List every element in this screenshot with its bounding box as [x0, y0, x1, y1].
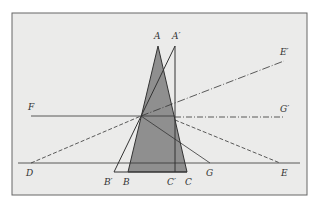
label-a-prime: A′ — [171, 31, 181, 41]
label-b-prime: B′ — [103, 177, 113, 187]
label-b: B — [122, 177, 130, 187]
label-a: A — [153, 31, 161, 41]
geometry-figure: A A′ E′ F G′ D B′ B C′ C G E — [0, 0, 317, 211]
label-e: E — [280, 168, 288, 178]
label-d: D — [25, 168, 33, 178]
label-c: C — [185, 177, 192, 187]
label-f: F — [27, 102, 35, 112]
label-g: G — [206, 168, 213, 178]
label-c-prime: C′ — [167, 177, 176, 187]
label-e-prime: E′ — [279, 47, 289, 57]
label-g-prime: G′ — [280, 104, 289, 114]
